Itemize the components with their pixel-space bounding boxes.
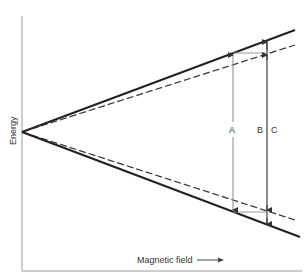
upper-solid-line bbox=[22, 30, 295, 132]
marker-a: A bbox=[229, 125, 235, 135]
lower-dashed-line bbox=[22, 132, 295, 220]
y-axis-label: Energy bbox=[8, 116, 18, 145]
x-axis-label: Magnetic field bbox=[137, 255, 193, 265]
upper-dashed-line bbox=[22, 45, 295, 132]
lower-solid-line bbox=[22, 132, 300, 237]
zeeman-diagram: A B C Energy Magnetic field bbox=[0, 0, 306, 278]
marker-b: B bbox=[257, 125, 263, 135]
x-label-arrowhead bbox=[218, 258, 224, 263]
marker-c: C bbox=[271, 125, 278, 135]
